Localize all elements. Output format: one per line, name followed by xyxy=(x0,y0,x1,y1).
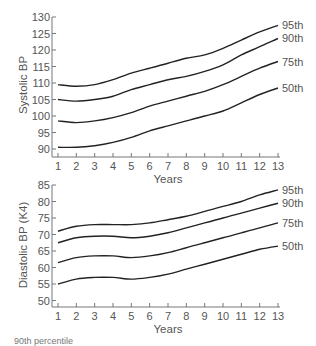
y-tick-label: 85 xyxy=(38,179,50,191)
curve-75th xyxy=(58,62,278,123)
series-label-90th: 90th xyxy=(282,197,303,209)
x-tick-label: 11 xyxy=(236,310,247,322)
x-tick-label: 4 xyxy=(110,310,116,322)
y-tick-label: 120 xyxy=(32,44,50,56)
y-tick-label: 80 xyxy=(38,196,50,208)
curve-75th xyxy=(58,223,278,263)
y-tick-label: 130 xyxy=(32,11,50,23)
x-tick-label: 13 xyxy=(272,310,284,322)
y-tick-label: 105 xyxy=(32,94,50,106)
systolic-bp-chart: 9095100105110115120125130123456789101112… xyxy=(17,11,303,185)
series-label-90th: 90th xyxy=(282,32,303,44)
curve-95th xyxy=(58,25,278,86)
x-tick-label: 13 xyxy=(272,160,284,172)
curve-50th xyxy=(58,88,278,147)
y-tick-label: 90 xyxy=(38,143,50,155)
y-tick-label: 100 xyxy=(32,110,50,122)
series-label-75th: 75th xyxy=(282,56,303,68)
y-tick-label: 65 xyxy=(38,245,50,257)
diastolic-bp-chart: 505560657075808512345678910111213YearsDi… xyxy=(17,179,303,335)
y-tick-label: 110 xyxy=(32,77,50,89)
y-tick-label: 70 xyxy=(38,229,50,241)
caption-fragment: 90th percentile xyxy=(14,336,73,346)
x-tick-label: 3 xyxy=(92,310,98,322)
y-axis-title: Diastolic BP (K4) xyxy=(17,201,29,288)
x-tick-label: 6 xyxy=(147,160,153,172)
curve-90th xyxy=(58,203,278,243)
y-tick-label: 95 xyxy=(38,127,50,139)
x-tick-label: 8 xyxy=(183,160,189,172)
y-tick-label: 115 xyxy=(32,61,50,73)
series-label-75th: 75th xyxy=(282,217,303,229)
x-tick-label: 5 xyxy=(128,310,134,322)
x-tick-label: 9 xyxy=(202,310,208,322)
x-tick-label: 3 xyxy=(92,160,98,172)
curve-90th xyxy=(58,39,278,102)
y-tick-label: 125 xyxy=(32,28,50,40)
x-tick-label: 12 xyxy=(254,160,266,172)
x-tick-label: 2 xyxy=(73,160,79,172)
x-tick-label: 11 xyxy=(236,160,247,172)
x-tick-label: 12 xyxy=(254,310,266,322)
x-axis-title: Years xyxy=(154,323,183,335)
x-tick-label: 7 xyxy=(165,310,171,322)
x-tick-label: 5 xyxy=(128,160,134,172)
y-tick-label: 50 xyxy=(38,295,50,307)
y-tick-label: 55 xyxy=(38,278,50,290)
y-tick-label: 75 xyxy=(38,212,50,224)
x-tick-label: 9 xyxy=(202,160,208,172)
curve-50th xyxy=(58,246,278,284)
series-label-50th: 50th xyxy=(282,82,303,94)
x-tick-label: 1 xyxy=(55,160,61,172)
x-tick-label: 10 xyxy=(217,310,229,322)
x-tick-label: 7 xyxy=(165,160,171,172)
x-tick-label: 6 xyxy=(147,310,153,322)
x-axis-title: Years xyxy=(154,173,183,185)
x-tick-label: 4 xyxy=(110,160,116,172)
y-tick-label: 60 xyxy=(38,262,50,274)
y-axis-title: Systolic BP xyxy=(17,56,29,114)
x-tick-label: 10 xyxy=(217,160,229,172)
series-label-95th: 95th xyxy=(282,19,303,31)
x-tick-label: 1 xyxy=(55,310,61,322)
x-tick-label: 2 xyxy=(73,310,79,322)
x-tick-label: 8 xyxy=(183,310,189,322)
series-label-95th: 95th xyxy=(282,184,303,196)
curve-95th xyxy=(58,190,278,231)
series-label-50th: 50th xyxy=(282,240,303,252)
